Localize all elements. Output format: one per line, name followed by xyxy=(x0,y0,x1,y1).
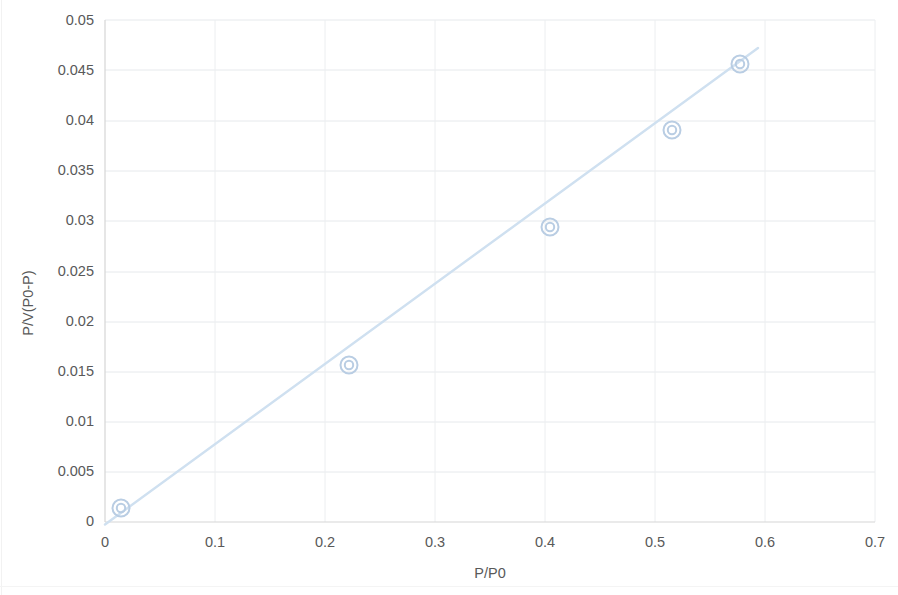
y-tick-label: 0.015 xyxy=(58,363,94,379)
x-tick-label: 0.1 xyxy=(205,534,225,550)
y-axis-title: P/V(P0-P) xyxy=(20,270,36,335)
chart-canvas: 0 0.005 0.01 0.015 0.02 0.025 0.03 0.035… xyxy=(0,0,898,595)
x-tick-label: 0.2 xyxy=(315,534,335,550)
vertical-gridlines xyxy=(215,20,875,522)
y-tick-label: 0.005 xyxy=(58,463,94,479)
y-tick-label: 0.03 xyxy=(66,212,94,228)
y-tick-label: 0.025 xyxy=(58,263,94,279)
x-tick-label: 0.4 xyxy=(535,534,555,550)
y-tick-label: 0.01 xyxy=(66,413,94,429)
y-tick-label: 0.02 xyxy=(66,313,94,329)
x-tick-label: 0 xyxy=(101,534,109,550)
y-tick-label: 0.05 xyxy=(66,12,94,28)
x-tick-label: 0.3 xyxy=(425,534,445,550)
data-point-marker xyxy=(341,357,358,374)
y-tick-label: 0.04 xyxy=(66,112,94,128)
x-tick-label: 0.6 xyxy=(755,534,775,550)
y-tick-labels: 0 0.005 0.01 0.015 0.02 0.025 0.03 0.035… xyxy=(58,12,94,529)
x-tick-label: 0.5 xyxy=(645,534,665,550)
horizontal-gridlines xyxy=(105,20,875,472)
y-tick-label: 0 xyxy=(86,513,94,529)
bet-plot-chart: 0 0.005 0.01 0.015 0.02 0.025 0.03 0.035… xyxy=(0,0,898,595)
y-tick-label: 0.045 xyxy=(58,62,94,78)
x-axis-title: P/P0 xyxy=(474,565,505,581)
x-tick-label: 0.7 xyxy=(865,534,885,550)
data-point-marker xyxy=(664,122,681,139)
y-tick-label: 0.035 xyxy=(58,162,94,178)
x-tick-labels: 0 0.1 0.2 0.3 0.4 0.5 0.6 0.7 xyxy=(101,534,885,550)
trendline xyxy=(105,48,758,525)
